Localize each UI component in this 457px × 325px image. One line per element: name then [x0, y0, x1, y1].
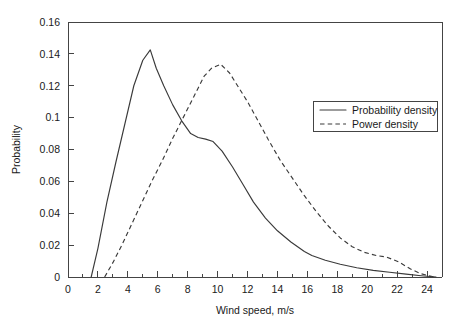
plot-frame — [68, 22, 442, 277]
x-tick-label: 8 — [185, 283, 191, 295]
data-series-group — [91, 50, 436, 277]
x-tick-label: 2 — [95, 283, 101, 295]
wind-speed-probability-chart: 024681012141618202224 00.020.040.060.080… — [0, 0, 457, 325]
series-line-2 — [105, 64, 435, 277]
y-tick-label: 0.16 — [40, 16, 61, 28]
y-axis-title: Probability — [10, 124, 22, 174]
y-tick-label: 0.08 — [40, 143, 61, 155]
x-tick-label: 12 — [242, 283, 254, 295]
x-tick-label: 0 — [65, 283, 71, 295]
x-tick-label: 10 — [212, 283, 224, 295]
y-tick-label: 0 — [54, 271, 60, 283]
x-axis-tick-labels: 024681012141618202224 — [65, 283, 433, 295]
x-tick-label: 6 — [155, 283, 161, 295]
y-tick-label: 0.02 — [40, 239, 61, 251]
chart-figure: 024681012141618202224 00.020.040.060.080… — [0, 0, 457, 325]
series-line-1 — [91, 50, 436, 277]
x-tick-label: 20 — [361, 283, 373, 295]
x-axis-title: Wind speed, m/s — [216, 304, 294, 316]
x-tick-label: 24 — [421, 283, 433, 295]
chart-legend: Probability densityPower density — [313, 101, 438, 131]
y-tick-label: 0.12 — [40, 80, 61, 92]
y-tick-label: 0.04 — [40, 207, 61, 219]
x-tick-label: 18 — [331, 283, 343, 295]
legend-label-1: Probability density — [352, 104, 438, 116]
y-tick-label: 0.06 — [40, 175, 61, 187]
x-tick-label: 4 — [125, 283, 131, 295]
y-tick-label: 0.1 — [45, 111, 60, 123]
x-tick-label: 22 — [391, 283, 403, 295]
y-axis-ticks — [68, 22, 74, 277]
y-tick-label: 0.14 — [40, 48, 61, 60]
y-axis-tick-labels: 00.020.040.060.080.10.120.140.16 — [40, 16, 61, 283]
x-tick-label: 16 — [302, 283, 314, 295]
legend-label-2: Power density — [352, 118, 419, 130]
x-tick-label: 14 — [272, 283, 284, 295]
